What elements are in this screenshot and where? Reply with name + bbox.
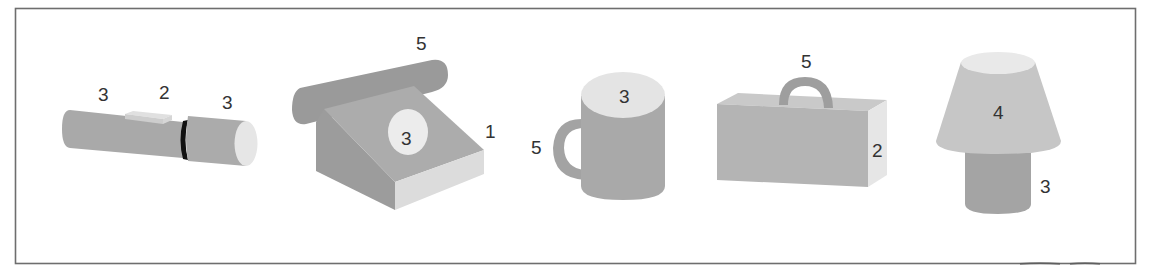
objects-figure: 3 2 3 5 3 1 3 5 [0, 0, 1153, 273]
briefcase-box-label: 2 [872, 140, 883, 161]
telephone-dial-label: 3 [401, 128, 412, 149]
flashlight-lens-shape [235, 121, 258, 166]
briefcase-handle-label: 5 [801, 51, 812, 72]
lamp-base-label: 3 [1040, 176, 1051, 197]
flashlight-switch-label: 2 [159, 82, 170, 103]
mug-handle-label: 5 [531, 137, 542, 158]
flashlight-body-label: 3 [98, 84, 109, 105]
telephone-base-label: 1 [485, 121, 496, 142]
flashlight-head-label: 3 [222, 92, 233, 113]
lamp-shade-top-shape [961, 52, 1035, 74]
scan-artifact [1020, 263, 1100, 264]
lamp-shade-label: 4 [993, 102, 1004, 123]
briefcase-front-shape [717, 104, 868, 187]
mug-cup-label: 3 [619, 86, 630, 107]
lamp-base-shape [965, 148, 1031, 214]
telephone-handset-label: 5 [416, 33, 427, 54]
